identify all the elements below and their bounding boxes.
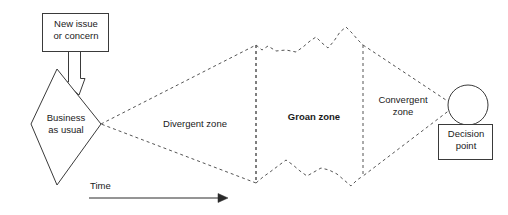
time-axis-label: Time (90, 180, 111, 192)
business-as-usual-label-line1: Business (34, 112, 98, 124)
convergent-zone-label-line1: Convergent (370, 94, 436, 106)
groan-zone-top-jagged-edge (256, 27, 363, 52)
divergent-zone-outline (101, 45, 256, 183)
new-issue-label-line2: or concern (44, 30, 108, 42)
right-arrow-icon (218, 194, 228, 203)
decision-point-circle (448, 85, 488, 125)
divergent-zone-label: Divergent zone (150, 118, 240, 130)
groan-zone-label: Groan zone (277, 111, 351, 123)
convergent-zone-label-line2: zone (370, 106, 436, 118)
decision-point-label-line2: point (441, 140, 491, 152)
business-as-usual-label: Business as usual (34, 112, 98, 135)
decision-point-label: Decision point (441, 128, 491, 151)
new-issue-label-line1: New issue (44, 18, 108, 30)
diagram-canvas: New issue or concern Business as usual D… (0, 0, 508, 215)
convergent-zone-label: Convergent zone (370, 94, 436, 117)
business-as-usual-label-line2: as usual (34, 124, 98, 136)
new-issue-label: New issue or concern (44, 18, 108, 41)
groan-zone-bottom-jagged-edge (256, 160, 363, 186)
decision-point-label-line1: Decision (441, 128, 491, 140)
